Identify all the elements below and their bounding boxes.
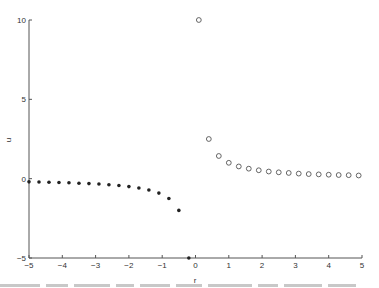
filled-dot-marker xyxy=(87,182,91,186)
hollow-circle-marker xyxy=(216,154,221,159)
hollow-circle-marker xyxy=(206,137,211,142)
hollow-circle-marker xyxy=(266,169,271,174)
x-tick-label: −4 xyxy=(58,261,68,270)
series-positive-r xyxy=(196,18,361,178)
x-tick-label: 0 xyxy=(193,261,198,270)
x-tick-label: 1 xyxy=(227,261,232,270)
hollow-circle-marker xyxy=(306,172,311,177)
x-ticks: −5−4−3−2−1012345 xyxy=(24,255,364,270)
hollow-circle-marker xyxy=(286,171,291,176)
y-tick-label: 0 xyxy=(22,175,27,184)
x-tick-label: 2 xyxy=(260,261,265,270)
hollow-circle-marker xyxy=(316,172,321,177)
filled-dot-marker xyxy=(157,191,161,195)
x-tick-label: 4 xyxy=(326,261,331,270)
y-tick-label: 10 xyxy=(17,16,26,25)
hollow-circle-marker xyxy=(256,168,261,173)
hollow-circle-marker xyxy=(196,18,201,23)
series-negative-r xyxy=(27,180,190,260)
x-tick-label: 3 xyxy=(293,261,298,270)
filled-dot-marker xyxy=(137,186,141,190)
y-tick-label: −5 xyxy=(17,254,27,263)
filled-dot-marker xyxy=(167,197,171,201)
hollow-circle-marker xyxy=(296,171,301,176)
x-tick-label: −3 xyxy=(91,261,101,270)
filled-dot-marker xyxy=(97,182,101,186)
axes xyxy=(29,20,362,258)
hollow-circle-marker xyxy=(226,160,231,165)
filled-dot-marker xyxy=(177,209,181,213)
hollow-circle-marker xyxy=(236,164,241,169)
filled-dot-marker xyxy=(37,180,41,184)
x-tick-label: −1 xyxy=(158,261,168,270)
filled-dot-marker xyxy=(147,188,151,192)
y-ticks: −50510 xyxy=(17,16,32,263)
filled-dot-marker xyxy=(57,181,61,185)
y-axis-label: u xyxy=(4,138,13,142)
filled-dot-marker xyxy=(127,185,131,189)
filled-dot-marker xyxy=(117,184,121,188)
scatter-plot: −5−4−3−2−1012345 −50510 r u xyxy=(0,0,379,288)
filled-dot-marker xyxy=(67,181,71,185)
filled-dot-marker xyxy=(107,183,111,187)
x-tick-label: −2 xyxy=(124,261,134,270)
hollow-circle-marker xyxy=(346,173,351,178)
hollow-circle-marker xyxy=(326,172,331,177)
filled-dot-marker xyxy=(77,181,81,185)
hollow-circle-marker xyxy=(356,173,361,178)
x-tick-label: 5 xyxy=(360,261,365,270)
filled-dot-marker xyxy=(47,181,51,185)
cropped-caption xyxy=(0,284,379,288)
hollow-circle-marker xyxy=(246,166,251,171)
y-tick-label: 5 xyxy=(22,95,27,104)
hollow-circle-marker xyxy=(276,170,281,175)
filled-dot-marker xyxy=(27,180,31,184)
data-points xyxy=(27,18,361,260)
hollow-circle-marker xyxy=(336,173,341,178)
filled-dot-marker xyxy=(187,256,191,260)
